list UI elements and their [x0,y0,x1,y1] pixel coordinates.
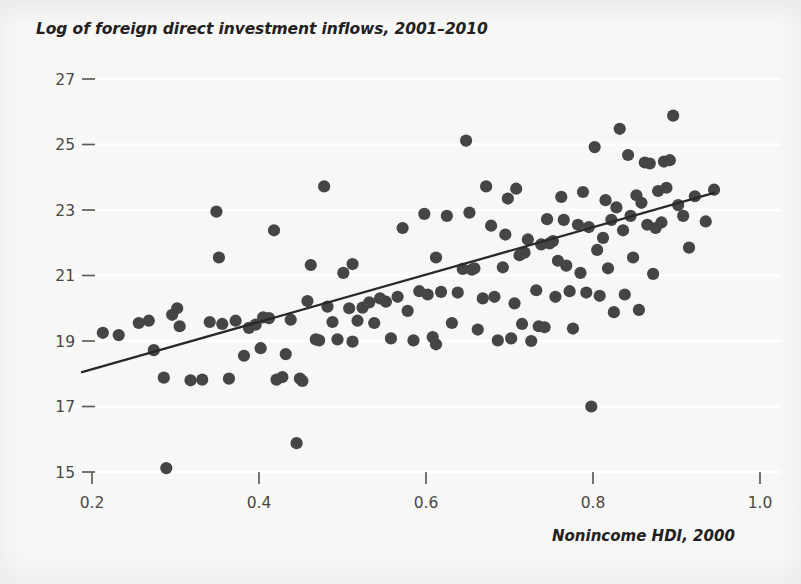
data-point [549,291,561,303]
data-point [343,302,355,314]
data-point [296,375,308,387]
data-point [363,296,375,308]
x-tick-label-1.0: 1.0 [748,494,773,512]
data-point [488,291,500,303]
data-point [472,323,484,335]
data-point [204,316,216,328]
data-point [430,338,442,350]
data-point [326,316,338,328]
data-point [346,336,358,348]
data-point [285,314,297,326]
y-tick-label-17: 17 [55,398,75,416]
data-point [560,260,572,272]
data-point [577,186,589,198]
data-point [318,180,330,192]
data-point [594,290,606,302]
data-point [213,251,225,263]
data-point [392,291,404,303]
data-point [346,258,358,270]
data-point [602,262,614,274]
y-tick-label-25: 25 [55,136,75,154]
data-point [525,335,537,347]
data-point [422,288,434,300]
data-point [351,315,363,327]
data-point [368,317,380,329]
data-point [463,207,475,219]
y-tick-label-21: 21 [55,267,75,285]
scatter-plot: 15171921232527 0.20.40.60.81.0 [0,0,801,584]
data-point [633,304,645,316]
data-point [480,180,492,192]
data-point [574,267,586,279]
data-point [627,251,639,263]
data-point [468,262,480,274]
data-point [499,228,511,240]
data-point [485,220,497,232]
data-point [610,201,622,213]
data-point [160,462,172,474]
data-point [516,318,528,330]
data-point [313,334,325,346]
data-point [664,154,676,166]
data-point [331,333,343,345]
data-point [558,214,570,226]
data-point [597,232,609,244]
data-point [585,400,597,412]
data-point [492,334,504,346]
data-point [216,318,228,330]
data-point [477,292,489,304]
data-point [337,267,349,279]
data-point [599,194,611,206]
data-point [619,288,631,300]
data-point [301,295,313,307]
y-tick-label-23: 23 [55,202,75,220]
x-tick-label-0.2: 0.2 [80,494,105,512]
data-point [435,286,447,298]
data-point [255,342,267,354]
data-point [230,315,242,327]
data-point [290,437,302,449]
data-point [530,284,542,296]
y-tick-label-15: 15 [55,464,75,482]
data-point [508,297,520,309]
data-point [407,334,419,346]
trendline-group [82,193,714,372]
data-point [171,302,183,314]
x-tick-label-0.8: 0.8 [581,494,606,512]
y-tick-label-19: 19 [55,333,75,351]
data-point [538,321,550,333]
data-point [580,286,592,298]
data-point [184,374,196,386]
data-point [441,210,453,222]
data-point [617,224,629,236]
data-point [635,197,647,209]
data-points-group [97,110,720,475]
data-point [460,134,472,146]
data-point [430,251,442,263]
data-point [97,327,109,339]
data-point [667,110,679,122]
data-point [683,242,695,254]
data-point [622,149,634,161]
trendline [82,193,714,372]
data-point [660,182,672,194]
data-point [647,268,659,280]
data-point [196,374,208,386]
data-point [608,306,620,318]
data-point [502,192,514,204]
data-point [655,216,667,228]
data-point [305,259,317,271]
data-point [143,315,155,327]
data-point [397,222,409,234]
x-axis-ticks: 0.20.40.60.81.0 [80,472,773,512]
x-axis-label: Nonincome HDI, 2000 [552,527,735,545]
data-point [589,141,601,153]
data-point [223,373,235,385]
data-point [238,350,250,362]
data-point [113,329,125,341]
data-point [385,332,397,344]
data-point [505,332,517,344]
figure-container: Log of foreign direct investment inflows… [0,0,801,584]
data-point [677,210,689,222]
data-point [591,244,603,256]
